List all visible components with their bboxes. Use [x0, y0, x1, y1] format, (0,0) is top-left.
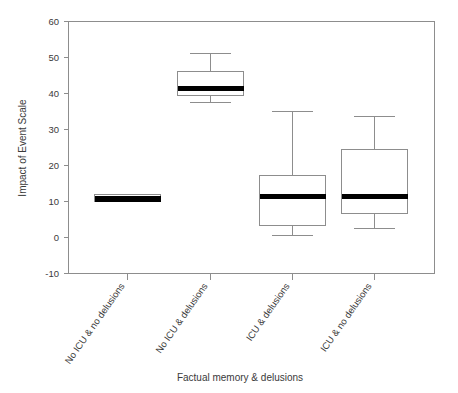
x-category-label-1: No ICU & no delusions — [63, 281, 127, 366]
median-line — [95, 196, 161, 201]
box-plot-3 — [260, 112, 326, 236]
y-axis-title: Impact of Event Scale — [17, 99, 28, 197]
y-axis-ticks — [64, 22, 69, 274]
box-iqr — [260, 175, 326, 226]
box-plot-2 — [178, 54, 244, 103]
box-plot-4 — [342, 117, 408, 229]
y-tick-label-0: 0 — [54, 232, 59, 243]
median-line — [260, 194, 326, 199]
x-category-labels: No ICU & no delusions No ICU & delusions… — [63, 281, 374, 366]
box-iqr — [342, 150, 408, 214]
y-tick-label-minus10: -10 — [45, 268, 59, 279]
y-tick-label-50: 50 — [48, 52, 59, 63]
y-tick-label-60: 60 — [48, 16, 59, 27]
box-iqr — [178, 72, 244, 95]
x-category-label-2: No ICU & delusions — [153, 281, 210, 355]
y-tick-label-30: 30 — [48, 124, 59, 135]
y-tick-labels: 60 50 40 30 20 10 0 -10 — [45, 16, 59, 279]
median-line — [342, 194, 408, 199]
x-category-label-4: ICU & no delusions — [318, 281, 374, 354]
plot-frame — [69, 22, 435, 274]
y-tick-label-20: 20 — [48, 160, 59, 171]
x-axis-title: Factual memory & delusions — [177, 372, 303, 383]
x-category-label-3: ICU & delusions — [244, 281, 292, 343]
box-plot-1 — [95, 195, 161, 202]
box-plots-layer — [95, 54, 408, 236]
y-tick-label-40: 40 — [48, 88, 59, 99]
median-line — [178, 86, 244, 91]
x-axis-ticks — [128, 274, 375, 280]
y-tick-label-10: 10 — [48, 196, 59, 207]
boxplot-figure: 60 50 40 30 20 10 0 -10 Impact of Event … — [0, 0, 458, 393]
